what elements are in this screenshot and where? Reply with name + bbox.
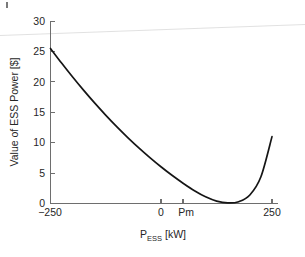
chart-figure: 0 5 10 15 20 25 30 −250 0 Pm 250 PESS [k… [0,0,305,257]
y-tick-label-5: 5 [39,167,45,179]
x-tick-label-250: 250 [263,206,281,218]
scan-artifact-mark [6,2,8,8]
y-tick-label-30: 30 [33,15,45,27]
x-tick-label-pm: Pm [178,206,194,218]
y-tick-label-15: 15 [33,106,45,118]
x-axis-title-subscript: ESS [147,234,162,243]
x-axis-title-main: P [140,228,147,240]
x-axis-title-unit: [kW] [162,228,186,240]
y-axis-title: Value of ESS Power [$] [8,57,20,166]
y-tick-label-25: 25 [33,45,45,57]
figure-background [0,0,305,257]
y-tick-label-20: 20 [33,76,45,88]
x-tick-label-0: 0 [158,206,164,218]
x-tick-label-neg250: −250 [38,206,62,218]
y-tick-label-10: 10 [33,136,45,148]
